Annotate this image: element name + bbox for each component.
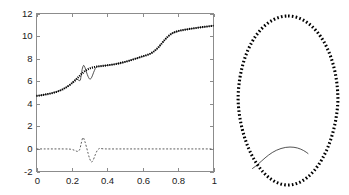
y-tick-label: 10 — [22, 30, 33, 41]
y-tick-label: 6 — [27, 75, 32, 86]
right-plot-panel — [228, 0, 349, 195]
oval-chord-arc — [253, 147, 309, 168]
series-residual-error — [37, 138, 214, 162]
left-plot-panel: 00.20.40.60.81 -2024681012 — [0, 0, 228, 195]
y-tick-label: 4 — [27, 98, 32, 109]
left-plot-y-tick-labels: -2024681012 — [22, 8, 33, 177]
left-plot-axis-box — [37, 14, 214, 172]
right-plot-svg — [228, 0, 349, 195]
oval-contour — [238, 16, 338, 185]
x-tick-label: 0.6 — [137, 175, 150, 186]
figure-root: 00.20.40.60.81 -2024681012 — [0, 0, 349, 195]
left-plot-x-ticks — [38, 14, 215, 172]
y-tick-label: 2 — [27, 120, 32, 131]
y-tick-label: 8 — [27, 53, 32, 64]
left-plot-svg: 00.20.40.60.81 -2024681012 — [0, 0, 228, 195]
y-tick-label: -2 — [24, 166, 32, 177]
series-numerical-solution — [37, 26, 214, 96]
x-tick-label: 0.2 — [66, 175, 79, 186]
x-tick-label: 0.4 — [101, 175, 114, 186]
series-reference-solution — [37, 26, 214, 96]
left-plot-x-tick-labels: 00.20.40.60.81 — [35, 175, 217, 186]
y-tick-label: 12 — [22, 8, 33, 19]
x-tick-label: 1 — [212, 175, 217, 186]
x-tick-label: 0.8 — [172, 175, 185, 186]
x-tick-label: 0 — [35, 175, 40, 186]
y-tick-label: 0 — [27, 143, 32, 154]
